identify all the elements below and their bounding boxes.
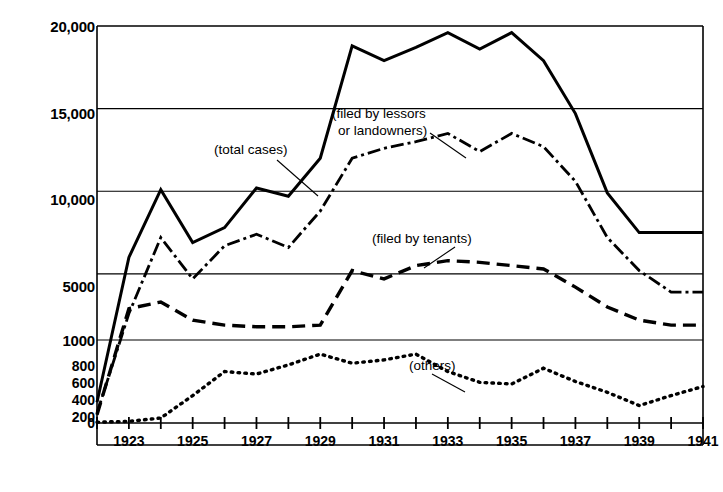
annotation-total-cases: (total cases) (214, 142, 288, 158)
y-tick-10000: 10,000 (0, 191, 95, 208)
annotation-lessors-line2: or landowners) (338, 123, 427, 139)
chart-canvas (0, 0, 723, 492)
series-line-others (97, 354, 703, 422)
y-tick-20000: 20,000 (0, 18, 95, 35)
x-tick-label-1929: 1929 (290, 433, 350, 449)
series-line-total-cases (97, 33, 703, 403)
x-tick-label-1925: 1925 (163, 433, 223, 449)
leader-line-0 (277, 160, 318, 196)
x-tick-label-1927: 1927 (226, 433, 286, 449)
leader-line-1 (430, 133, 466, 158)
gridlines (97, 26, 703, 423)
series-line-filed-by-tenants (97, 261, 703, 415)
y-tick-5000: 5000 (0, 278, 95, 295)
y-tick-800: 800 (0, 358, 95, 374)
y-tick-15000: 15,000 (0, 105, 95, 122)
x-tick-label-1931: 1931 (354, 433, 414, 449)
y-tick-0: 0 (0, 415, 95, 431)
x-tick-label-1937: 1937 (545, 433, 605, 449)
x-tick-label-1939: 1939 (609, 433, 669, 449)
annotation-tenants: (filed by tenants) (372, 231, 472, 247)
chart-figure: 20,000 15,000 10,000 5000 1000 800 600 4… (0, 0, 723, 492)
y-tick-1000: 1000 (0, 332, 95, 349)
y-tick-400: 400 (0, 392, 95, 408)
x-tick-label-1941: 1941 (673, 433, 723, 449)
x-tick-label-1935: 1935 (482, 433, 542, 449)
data-series-layer (97, 33, 703, 423)
annotation-lessors-line1: (filed by lessors (332, 106, 426, 122)
x-tick-label-1933: 1933 (418, 433, 478, 449)
y-tick-600: 600 (0, 375, 95, 391)
leader-line-2 (424, 247, 455, 268)
annotation-others: (others) (409, 358, 456, 374)
x-tick-label-1923: 1923 (99, 433, 159, 449)
